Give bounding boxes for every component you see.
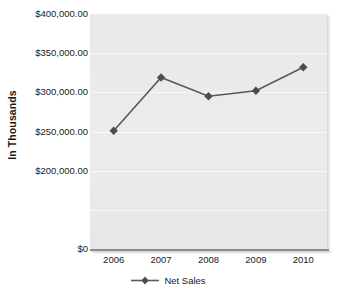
y-axis-tick-label: $350,000.00 <box>22 48 88 58</box>
legend-label-net-sales: Net Sales <box>164 276 205 286</box>
data-point-marker <box>252 87 260 95</box>
x-axis-tick-label: 2008 <box>198 255 219 265</box>
y-axis-tick-label: $200,000.00 <box>22 166 88 176</box>
x-axis-tick-label: 2009 <box>245 255 266 265</box>
net-sales-line-chart: In Thousands $400,000.00$350,000.00$300,… <box>0 0 337 295</box>
x-axis-tick-label: 2006 <box>103 255 124 265</box>
y-axis-tick-labels: $400,000.00$350,000.00$300,000.00$250,00… <box>22 0 88 256</box>
x-axis-tick-label: 2007 <box>151 255 172 265</box>
data-point-marker <box>204 92 212 100</box>
x-axis-tick-labels: 20062007200820092010 <box>90 255 327 271</box>
x-axis-shadow <box>92 251 331 253</box>
y-axis-tick-label: $300,000.00 <box>22 88 88 98</box>
y-axis-title: In Thousands <box>0 0 24 250</box>
y-axis-tick-label: $400,000.00 <box>22 9 88 19</box>
x-axis-tick-label: 2010 <box>293 255 314 265</box>
y-axis-tick-label: $250,000.00 <box>22 127 88 137</box>
legend-marker-icon <box>131 275 159 286</box>
data-point-marker <box>299 63 307 71</box>
plot-area <box>90 14 327 249</box>
chart-legend: Net Sales <box>0 275 337 286</box>
series-net-sales <box>90 14 327 249</box>
y-axis-title-label: In Thousands <box>6 90 18 159</box>
y-axis-tick-label: $0 <box>22 244 88 254</box>
x-axis-line <box>90 249 329 251</box>
